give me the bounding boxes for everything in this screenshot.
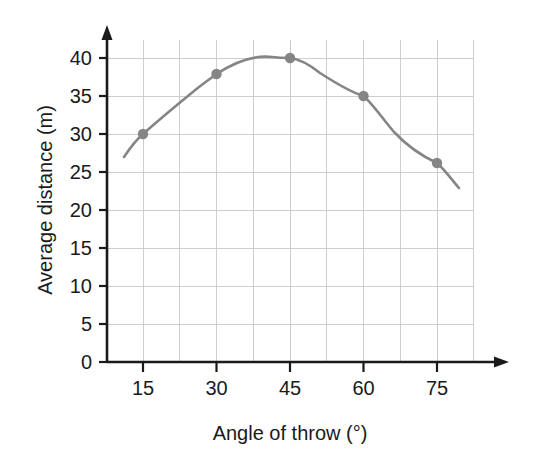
y-axis [102, 25, 113, 362]
data-point [138, 129, 148, 139]
y-tick-label: 0 [81, 351, 92, 373]
x-axis [107, 357, 509, 368]
x-tick-label: 15 [132, 377, 154, 399]
x-axis-ticks [143, 362, 437, 372]
x-tick-label: 75 [426, 377, 448, 399]
y-tick-label: 10 [70, 275, 92, 297]
y-tick-label: 30 [70, 123, 92, 145]
y-tick-label: 15 [70, 237, 92, 259]
y-tick-label: 25 [70, 161, 92, 183]
data-point [358, 91, 368, 101]
data-point [432, 158, 442, 168]
vertical-gridlines [143, 40, 474, 362]
x-tick-label: 45 [279, 377, 301, 399]
y-tick-label: 35 [70, 85, 92, 107]
y-tick-label: 5 [81, 313, 92, 335]
y-tick-label: 40 [70, 47, 92, 69]
y-tick-labels: 0 5 10 15 20 25 30 35 40 [70, 47, 92, 373]
y-tick-label: 20 [70, 199, 92, 221]
data-point [211, 69, 221, 79]
x-axis-arrow [494, 357, 509, 368]
horizontal-gridlines [107, 58, 474, 324]
data-point [285, 53, 295, 63]
series-line [124, 57, 459, 188]
x-axis-title: Angle of throw (°) [213, 422, 368, 444]
x-tick-labels: 15 30 45 60 75 [132, 377, 448, 399]
x-tick-label: 60 [352, 377, 374, 399]
chart-figure: 0 5 10 15 20 25 30 35 40 15 30 45 60 75 [0, 0, 537, 454]
x-tick-label: 30 [205, 377, 227, 399]
y-axis-arrow [102, 25, 113, 40]
line-chart: 0 5 10 15 20 25 30 35 40 15 30 45 60 75 [0, 0, 537, 454]
y-axis-title: Average distance (m) [34, 105, 56, 295]
